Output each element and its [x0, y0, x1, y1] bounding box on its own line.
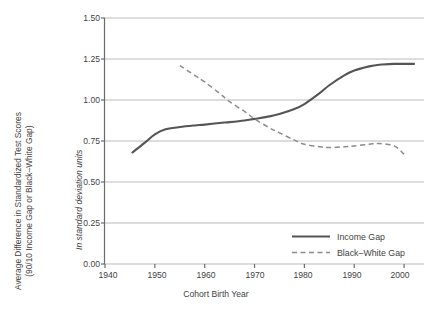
y-axis-title-line2: (90/10 Income Gap or Black–White Gap) [24, 112, 35, 290]
x-tick-label: 2000 [380, 270, 420, 280]
chart-figure: Average Difference in Standardized Test … [0, 0, 432, 317]
x-tick-label: 1990 [332, 270, 372, 280]
x-tick-label: 1960 [186, 270, 226, 280]
x-tick-label: 1950 [137, 270, 177, 280]
y-tick-label: 1.00 [66, 95, 100, 105]
y-tick-label: 1.25 [66, 54, 100, 64]
y-axis-title: Average Difference in Standardized Test … [13, 112, 35, 290]
axis-ticks [101, 18, 404, 268]
x-axis-title: Cohort Birth Year [0, 289, 432, 299]
legend-label-income-gap: Income Gap [337, 232, 385, 242]
y-axis-title-line1: Average Difference in Standardized Test … [13, 112, 24, 290]
x-tick-label: 1980 [283, 270, 323, 280]
y-tick-label: 0.00 [66, 259, 100, 269]
x-tick-label: 1970 [235, 270, 275, 280]
y-tick-label: 1.50 [66, 13, 100, 23]
y-tick-label: 0.25 [66, 218, 100, 228]
x-tick-label: 1940 [88, 270, 128, 280]
gridlines [105, 18, 424, 264]
legend: Income Gap Black–White Gap [292, 232, 405, 258]
series-line-income-gap [132, 64, 414, 153]
legend-label-black-white-gap: Black–White Gap [337, 248, 405, 258]
y-tick-label: 0.50 [66, 177, 100, 187]
y-tick-label: 0.75 [66, 136, 100, 146]
